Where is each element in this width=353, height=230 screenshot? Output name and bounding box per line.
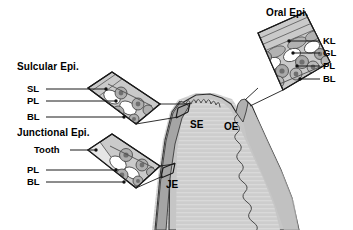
label-sulcular-sl: SL — [27, 84, 39, 94]
diagram-canvas: Oral Epi. KL GL PL BL Sulcular Epi. SL P… — [0, 0, 353, 230]
marker-oe: OE — [224, 122, 238, 132]
panel-junctional-epi — [88, 134, 160, 188]
label-junctional-pl: PL — [27, 165, 39, 175]
marker-je: JE — [166, 180, 178, 190]
label-oral-bl: BL — [323, 74, 336, 84]
panel-title-oral-epi: Oral Epi. — [266, 8, 308, 18]
panel-title-sulcular-epi: Sulcular Epi. — [17, 62, 79, 72]
gingiva-body — [152, 93, 299, 230]
gingiva-illustration — [0, 0, 353, 230]
label-oral-gl: GL — [323, 48, 336, 58]
label-junctional-bl: BL — [27, 177, 40, 187]
marker-se: SE — [190, 120, 203, 130]
panel-oral-epi — [256, 12, 331, 90]
label-sulcular-pl: PL — [27, 96, 39, 106]
label-junctional-tooth: Tooth — [34, 145, 60, 155]
label-oral-kl: KL — [323, 36, 336, 46]
label-oral-pl: PL — [323, 61, 335, 71]
panel-title-junctional-epi: Junctional Epi. — [17, 128, 90, 138]
label-sulcular-bl: BL — [27, 112, 40, 122]
